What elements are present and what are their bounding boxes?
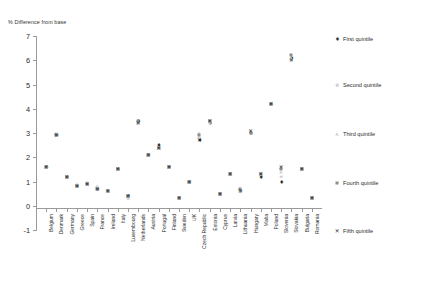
x-axis-tick bbox=[291, 208, 292, 212]
legend-marker-icon bbox=[334, 82, 340, 88]
data-point: ✕ bbox=[217, 191, 222, 196]
legend-item[interactable]: Second quintile bbox=[334, 82, 381, 88]
x-axis-tick bbox=[77, 208, 78, 212]
data-point: ✕ bbox=[156, 145, 161, 150]
x-axis-category-label: Sweden bbox=[181, 214, 187, 232]
y-axis-tick-label: -1 bbox=[23, 226, 30, 235]
data-point: ✕ bbox=[74, 184, 79, 189]
x-axis-category-label: Malta bbox=[263, 214, 269, 226]
x-axis-category-label: Czech Republic bbox=[201, 214, 207, 249]
data-point: ♦ bbox=[279, 180, 283, 184]
x-axis-category-label: Netherlands bbox=[140, 214, 146, 241]
x-axis-tick bbox=[271, 208, 272, 212]
data-point: ✕ bbox=[85, 181, 90, 186]
x-axis-tick bbox=[312, 208, 313, 212]
x-axis-tick bbox=[97, 208, 98, 212]
x-axis-tick bbox=[210, 208, 211, 212]
data-point: ✕ bbox=[299, 167, 304, 172]
data-point: ✕ bbox=[197, 138, 202, 143]
x-axis-category-label: Estonia bbox=[212, 214, 218, 231]
y-axis-tick-label: 3 bbox=[26, 129, 30, 138]
x-axis-category-label: Luxembourg bbox=[130, 214, 136, 242]
x-axis-tick bbox=[118, 208, 119, 212]
legend-marker-icon: ♦ bbox=[334, 36, 340, 42]
data-point: ✕ bbox=[146, 152, 151, 157]
y-axis-tick-label: 4 bbox=[26, 104, 30, 113]
legend-label: Third quintile bbox=[343, 131, 375, 137]
x-axis-category-label: Poland bbox=[273, 214, 279, 230]
legend-item[interactable]: ✕Fifth quintile bbox=[334, 228, 373, 234]
x-axis-tick bbox=[189, 208, 190, 212]
legend-label: Second quintile bbox=[343, 82, 381, 88]
x-axis-tick bbox=[230, 208, 231, 212]
y-axis-tick-label: 1 bbox=[26, 177, 30, 186]
y-axis-tick bbox=[33, 109, 37, 110]
x-axis-category-label: Italy bbox=[120, 214, 126, 223]
x-axis-tick bbox=[240, 208, 241, 212]
x-axis-category-label: Slovenia bbox=[283, 214, 289, 233]
x-axis-tick bbox=[179, 208, 180, 212]
data-point: ✕ bbox=[228, 172, 233, 177]
data-point: ✕ bbox=[187, 179, 192, 184]
x-axis-tick bbox=[56, 208, 57, 212]
x-axis-tick bbox=[220, 208, 221, 212]
legend-marker-icon: ✕ bbox=[334, 228, 340, 234]
data-point: ✕ bbox=[309, 196, 314, 201]
x-axis-tick bbox=[108, 208, 109, 212]
x-axis-tick bbox=[159, 208, 160, 212]
data-point: ✕ bbox=[248, 128, 253, 133]
y-axis-tick bbox=[33, 36, 37, 37]
y-axis-tick bbox=[33, 133, 37, 134]
legend-item[interactable]: Third quintile bbox=[334, 131, 375, 137]
data-point: ✕ bbox=[166, 164, 171, 169]
x-axis-tick bbox=[302, 208, 303, 212]
data-point: ✕ bbox=[207, 118, 212, 123]
legend-label: Fifth quintile bbox=[343, 228, 373, 234]
x-axis-category-label: Austria bbox=[150, 214, 156, 230]
x-axis-tick bbox=[148, 208, 149, 212]
x-axis-category-label: Latvia bbox=[232, 214, 238, 227]
x-axis-tick bbox=[67, 208, 68, 212]
scatter-chart: % Difference from base -101234567 Belgiu… bbox=[0, 0, 429, 282]
x-axis-tick bbox=[281, 208, 282, 212]
legend-label: Fourth quintile bbox=[343, 180, 378, 186]
data-point: ✕ bbox=[54, 133, 59, 138]
y-axis-tick bbox=[33, 230, 37, 231]
data-point: ✕ bbox=[44, 164, 49, 169]
x-axis-category-label: Portugal bbox=[161, 214, 167, 233]
y-axis-title: % Difference from base bbox=[8, 19, 66, 25]
data-point: ✕ bbox=[95, 186, 100, 191]
data-point: ✕ bbox=[238, 189, 243, 194]
data-point: ✕ bbox=[177, 196, 182, 201]
x-axis-tick bbox=[199, 208, 200, 212]
x-axis-category-label: Lithuania bbox=[242, 214, 248, 234]
x-axis-tick bbox=[251, 208, 252, 212]
x-axis-category-label: Finland bbox=[171, 214, 177, 230]
x-axis-category-label: UK bbox=[191, 214, 197, 221]
legend-item[interactable]: Fourth quintile bbox=[334, 180, 378, 186]
y-axis-tick bbox=[33, 60, 37, 61]
legend-item[interactable]: ♦First quintile bbox=[334, 36, 373, 42]
data-point bbox=[280, 175, 283, 178]
x-axis-tick bbox=[261, 208, 262, 212]
x-axis-tick bbox=[87, 208, 88, 212]
x-axis-tick bbox=[46, 208, 47, 212]
data-point: ✕ bbox=[258, 172, 263, 177]
data-point: ✕ bbox=[136, 121, 141, 126]
x-axis-category-label: Spain bbox=[89, 214, 95, 227]
x-axis-category-label: Greece bbox=[79, 214, 85, 230]
y-axis-tick bbox=[33, 85, 37, 86]
x-axis-category-label: Germany bbox=[69, 214, 75, 235]
legend-marker-icon bbox=[334, 180, 340, 186]
y-axis-tick-label: 0 bbox=[26, 201, 30, 210]
x-axis-category-label: Cyprus bbox=[222, 214, 228, 230]
y-axis-tick-label: 7 bbox=[26, 32, 30, 41]
legend-marker-icon bbox=[334, 131, 340, 137]
x-axis-category-label: Bulgaria bbox=[304, 214, 310, 232]
x-axis-category-label: Ireland bbox=[110, 214, 116, 229]
data-point: ✕ bbox=[105, 189, 110, 194]
x-axis-category-label: Romania bbox=[314, 214, 320, 234]
y-axis-tick bbox=[33, 157, 37, 158]
x-axis-tick bbox=[138, 208, 139, 212]
data-point: ✕ bbox=[64, 174, 69, 179]
